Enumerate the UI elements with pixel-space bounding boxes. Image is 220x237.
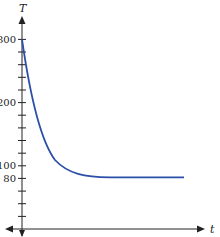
y-tick-label-200: 200 — [0, 97, 16, 108]
decay-curve — [22, 39, 184, 177]
x-axis-label: t — [210, 223, 215, 236]
y-axis-arrow-up-icon — [19, 16, 26, 24]
x-axis-arrow-left-icon — [5, 226, 13, 233]
chart: 300 200 100 80 T t — [0, 0, 220, 237]
y-tick-label-300: 300 — [0, 34, 16, 45]
y-tick-label-100: 100 — [0, 160, 16, 171]
y-tick-label-80: 80 — [3, 173, 16, 184]
x-axis-arrow-right-icon — [197, 226, 205, 233]
y-axis-label: T — [19, 2, 28, 15]
y-axis-arrow-down-icon — [19, 230, 25, 237]
x-axis: t — [5, 223, 215, 236]
y-axis: 300 200 100 80 T — [0, 2, 28, 237]
